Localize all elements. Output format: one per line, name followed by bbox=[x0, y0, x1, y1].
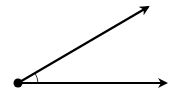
angle-arc bbox=[35, 73, 38, 83]
vertex-point bbox=[14, 79, 23, 88]
angle-diagram bbox=[0, 0, 176, 111]
upper-ray bbox=[18, 7, 148, 83]
